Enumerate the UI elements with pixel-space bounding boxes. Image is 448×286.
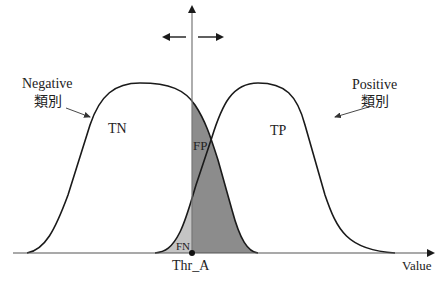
positive-label-en: Positive [352,77,397,92]
tn-label: TN [108,121,127,136]
negative-label-zh: 類別 [34,94,62,109]
negative-pointer [66,108,90,117]
fn-label: FN [176,240,190,252]
fn-region [155,83,395,253]
fp-label: FP [193,138,207,153]
threshold-label: Thr_A [172,258,210,273]
negative-label-en: Negative [22,76,73,91]
tp-label: TP [270,123,287,138]
x-axis-label: Value [402,258,432,273]
threshold-diagram: Negative 類別 Positive 類別 TN TP FP FN Thr_… [0,0,448,286]
positive-label-zh: 類別 [361,94,389,109]
